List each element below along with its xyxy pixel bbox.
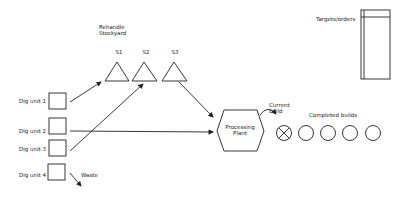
plant-line2: Plant	[225, 130, 254, 136]
stockpile-s3-label: S3	[172, 49, 179, 55]
stockpile-s2-triangle	[132, 62, 157, 81]
dig-unit-1-box	[49, 93, 66, 109]
completed-builds-label: Completed builds	[309, 112, 357, 118]
dig-unit-4-label: Dig unit 4	[19, 172, 46, 178]
diagram-canvas	[0, 0, 408, 198]
arrow-dig3-to-s2	[70, 84, 143, 151]
targets-orders-box	[361, 10, 390, 79]
dig-unit-4-box	[48, 164, 65, 180]
current-build-label: Current build	[269, 102, 290, 115]
rehandle-line2: Stockyard	[99, 30, 126, 36]
stockpile-s2-label: S2	[143, 49, 150, 55]
dig-unit-3-box	[49, 140, 66, 156]
stockpile-s1-triangle	[105, 62, 129, 81]
completed-build-circle	[299, 126, 314, 141]
rehandle-stockyard-label: Rehandle Stockyard	[99, 24, 126, 37]
arrow-s3-to-plant	[179, 82, 213, 117]
completed-build-circle	[366, 126, 381, 141]
dig-unit-2-box	[49, 118, 66, 134]
dig-unit-3-label: Dig unit 3	[19, 146, 46, 152]
completed-build-circle	[343, 126, 358, 141]
stockpile-s1-label: S1	[116, 49, 123, 55]
stockpile-s3-triangle	[162, 62, 187, 81]
processing-plant-label: Processing Plant	[225, 124, 254, 137]
completed-build-circle	[321, 126, 336, 141]
waste-label: Waste	[81, 172, 98, 178]
targets-orders-label: Targets/orders	[316, 16, 355, 22]
current-build-line2: build	[269, 108, 290, 114]
dig-unit-1-label: Dig unit 1	[19, 98, 46, 104]
arrow-dig1-to-s1	[70, 82, 101, 102]
dig-unit-2-label: Dig unit 2	[19, 128, 46, 134]
arrow-dig4-to-waste	[70, 173, 81, 186]
